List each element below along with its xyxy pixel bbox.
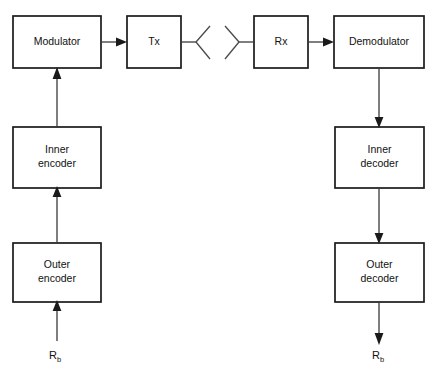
connector-outer-encoder-to-inner-encoder — [53, 186, 62, 243]
output-bit-rate-subscript: b — [380, 355, 384, 364]
block-outer-decoder[interactable] — [335, 243, 424, 302]
signal-label-input-bit-rate: Rb — [49, 349, 61, 364]
connector-outer-decoder-to-sink — [375, 302, 384, 345]
output-bit-rate-symbol: R — [372, 349, 380, 361]
connector-rx-to-demodulator — [308, 38, 334, 47]
tx-antenna-icon — [196, 26, 210, 59]
connector-inner-decoder-to-outer-decoder — [375, 188, 384, 244]
block-inner-decoder[interactable] — [335, 127, 424, 188]
connector-source-to-outer-encoder — [53, 300, 62, 341]
block-diagram: Modulator Tx Rx Demodulator Inner encode… — [0, 0, 437, 379]
connector-inner-encoder-to-modulator — [53, 67, 62, 127]
block-outer-encoder[interactable] — [13, 243, 101, 302]
block-modulator[interactable] — [13, 16, 101, 68]
input-bit-rate-subscript: b — [57, 355, 61, 364]
block-tx[interactable] — [127, 16, 181, 68]
input-bit-rate-symbol: R — [49, 349, 57, 361]
block-inner-encoder[interactable] — [13, 127, 101, 188]
diagram-canvas — [0, 0, 437, 379]
block-rx[interactable] — [254, 16, 308, 68]
rx-antenna-icon — [225, 26, 239, 59]
block-demodulator[interactable] — [334, 16, 424, 68]
signal-label-output-bit-rate: Rb — [372, 349, 384, 364]
connector-demodulator-to-inner-decoder — [375, 68, 384, 128]
connector-modulator-to-tx — [101, 38, 127, 47]
